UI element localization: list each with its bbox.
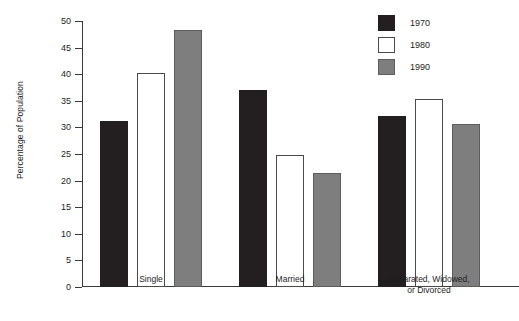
legend-label-1980: 1980 bbox=[410, 40, 430, 50]
y-tick-label: 10 bbox=[61, 229, 71, 238]
y-tick-label: 35 bbox=[61, 96, 71, 105]
bar-1980-group-2 bbox=[276, 155, 304, 287]
y-axis-line bbox=[82, 21, 83, 287]
y-tick-mark bbox=[75, 21, 82, 22]
y-tick-label: 30 bbox=[61, 123, 71, 132]
y-tick-mark bbox=[75, 234, 82, 235]
y-tick-label: 40 bbox=[61, 70, 71, 79]
x-axis-label-group-1: Single bbox=[71, 274, 231, 285]
y-tick-mark bbox=[75, 207, 82, 208]
x-axis-label-group-2: Married bbox=[210, 274, 370, 285]
bar-1970-group-1 bbox=[100, 121, 128, 287]
y-tick-label: 15 bbox=[61, 203, 71, 212]
legend-swatch-icon-1990 bbox=[378, 59, 395, 75]
legend-swatch-icon-1970 bbox=[378, 15, 395, 31]
legend-item-1970: 1970 bbox=[378, 12, 430, 34]
y-tick-label: 25 bbox=[61, 150, 71, 159]
bar-1970-group-3 bbox=[378, 116, 406, 287]
legend-item-1980: 1980 bbox=[378, 34, 430, 56]
legend-swatch-icon-1980 bbox=[378, 37, 395, 53]
bar-1990-group-3 bbox=[452, 124, 480, 287]
bar-1990-group-2 bbox=[313, 173, 341, 287]
bar-1980-group-3 bbox=[415, 99, 443, 287]
legend-label-1990: 1990 bbox=[410, 62, 430, 72]
y-tick-mark bbox=[75, 101, 82, 102]
y-tick-mark bbox=[75, 74, 82, 75]
y-tick-label: 45 bbox=[61, 43, 71, 52]
y-tick-label: 50 bbox=[61, 17, 71, 26]
legend: 1970 1980 1990 bbox=[378, 12, 430, 78]
plot-area: 05101520253035404550 bbox=[82, 21, 519, 287]
bar-1970-group-2 bbox=[239, 90, 267, 287]
y-tick-mark bbox=[75, 260, 82, 261]
bar-1980-group-1 bbox=[137, 73, 165, 287]
y-axis-title: Percentage of Population bbox=[15, 30, 25, 230]
y-tick-mark bbox=[75, 127, 82, 128]
y-tick-label: 20 bbox=[61, 176, 71, 185]
y-tick-mark bbox=[75, 48, 82, 49]
bar-chart: Percentage of Population 051015202530354… bbox=[0, 0, 519, 321]
y-tick-mark bbox=[75, 181, 82, 182]
legend-label-1970: 1970 bbox=[410, 18, 430, 28]
y-tick-mark bbox=[75, 154, 82, 155]
bar-1990-group-1 bbox=[174, 30, 202, 287]
y-tick-mark bbox=[75, 287, 82, 288]
legend-item-1990: 1990 bbox=[378, 56, 430, 78]
x-axis-label-group-3: Separated, Widowed,or Divorced bbox=[349, 274, 509, 296]
y-tick-label: 5 bbox=[66, 256, 71, 265]
